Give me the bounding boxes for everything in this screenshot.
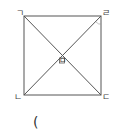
answer-blank-paren: ( (33, 115, 38, 129)
square-diagram (0, 0, 121, 135)
vertex-label-bottom-right: ㄷ (102, 93, 110, 102)
vertex-label-top-right: ㄹ (102, 9, 110, 18)
vertex-label-bottom-left: ㄴ (14, 93, 22, 102)
vertex-label-top-left: ㄱ (16, 9, 24, 18)
angle-arc-mark (96, 22, 101, 24)
center-label: ㅁ (59, 57, 66, 65)
